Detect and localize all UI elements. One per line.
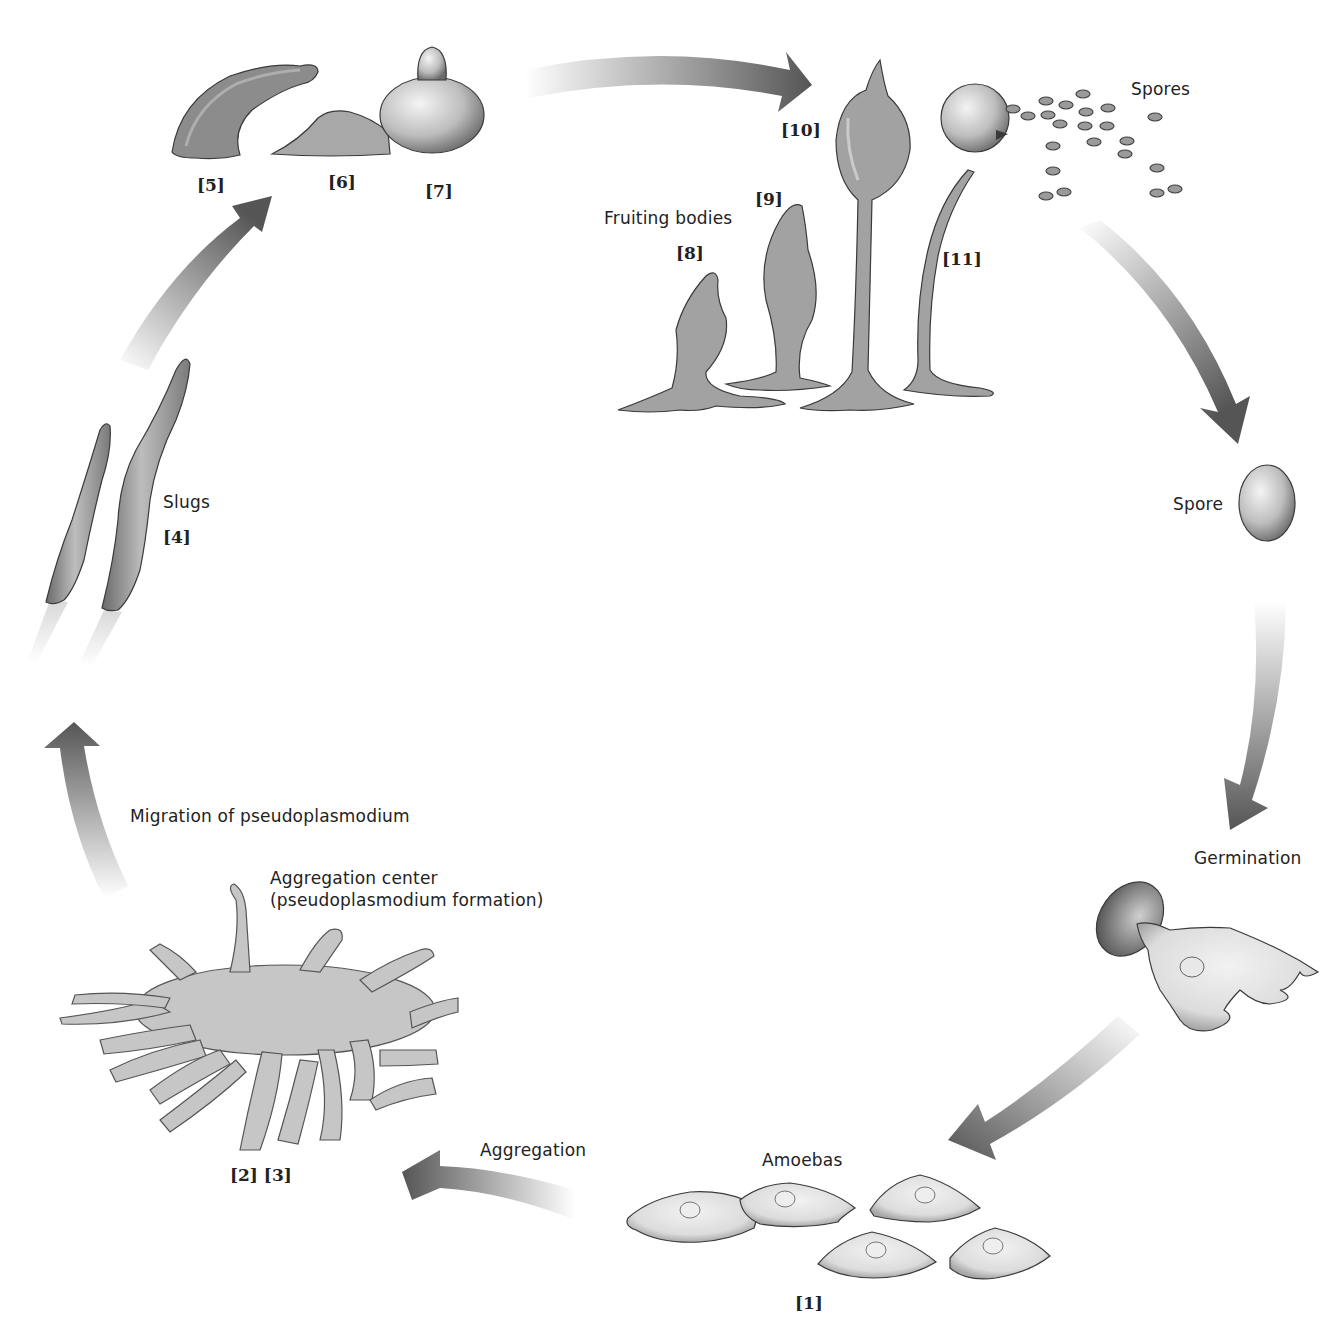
stage-9-number: [9]	[755, 189, 783, 209]
spore-illustration	[1239, 465, 1295, 541]
arrow-slugs-to-culmination	[120, 196, 272, 370]
spores-label: Spores	[1131, 79, 1190, 99]
slugs-illustration	[28, 359, 190, 666]
stage-2-3-number: [2] [3]	[230, 1165, 292, 1185]
stage-8-number: [8]	[676, 243, 704, 263]
amoeba	[627, 1192, 756, 1243]
amoeba	[818, 1232, 936, 1278]
fruiting-bodies-label: Fruiting bodies	[604, 208, 732, 228]
germination-label: Germination	[1194, 848, 1302, 868]
spores-cluster	[1006, 90, 1182, 200]
arrow-to-amoebas	[948, 1016, 1140, 1160]
arrow-to-fruiting-bodies	[525, 52, 812, 112]
stage-6-number: [6]	[328, 172, 356, 192]
arrow-migration	[44, 722, 128, 898]
stage-10-number: [10]	[781, 120, 821, 140]
stage-1-number: [1]	[795, 1293, 823, 1313]
aggregation-center-label-line2: (pseudoplasmodium formation)	[270, 890, 544, 910]
amoeba	[740, 1183, 855, 1227]
stage-4-number: [4]	[163, 527, 191, 547]
stage-5-number: [5]	[197, 175, 225, 195]
stage-8-fruiting-body	[618, 273, 785, 412]
arrow-to-germination	[1224, 602, 1286, 830]
amoebas-illustration	[627, 1175, 1050, 1279]
stage-10-fruiting-body	[800, 60, 914, 411]
stage-9-fruiting-body	[726, 205, 830, 391]
stage-7-number: [7]	[425, 181, 453, 201]
slugs-label: Slugs	[163, 492, 210, 512]
arrow-to-spore	[1080, 220, 1250, 444]
aggregation-label: Aggregation	[480, 1140, 586, 1160]
slime-mold-life-cycle-diagram	[0, 0, 1339, 1344]
spore-label: Spore	[1173, 494, 1223, 514]
stage-11-mature-sporangium	[904, 84, 1009, 396]
migration-label: Migration of pseudoplasmodium	[130, 806, 410, 826]
amoeba	[950, 1228, 1050, 1279]
stage-7-organism	[380, 47, 484, 153]
amoeba	[870, 1175, 980, 1222]
amoebas-label: Amoebas	[762, 1150, 843, 1170]
stage-11-number: [11]	[942, 249, 982, 269]
arrow-aggregation	[402, 1150, 575, 1220]
germination-illustration	[1082, 869, 1318, 1031]
aggregation-center-illustration	[60, 884, 458, 1150]
stage-6-organism	[272, 111, 390, 156]
aggregation-center-label-line1: Aggregation center	[270, 868, 438, 888]
